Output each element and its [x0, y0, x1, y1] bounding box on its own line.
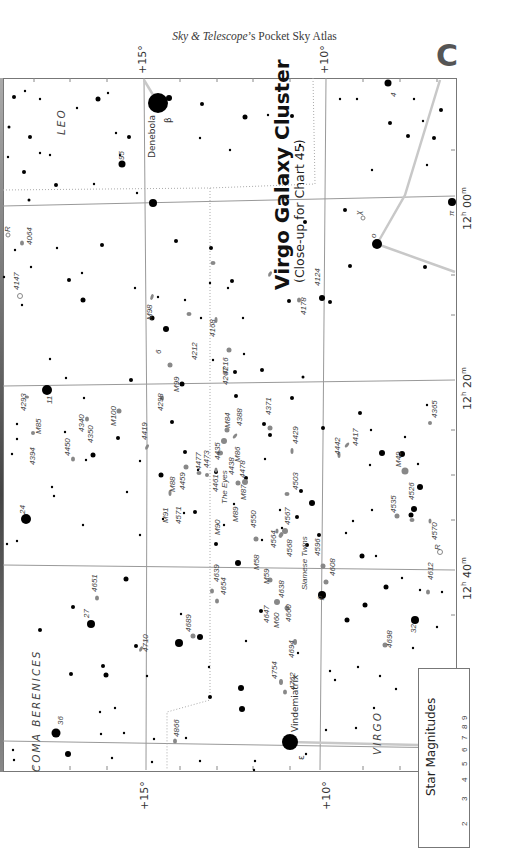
- star-label-chi: χ: [354, 211, 363, 215]
- object-label-4568: 4568: [285, 539, 294, 557]
- object-label-4550: 4550: [249, 510, 258, 528]
- star-label-24: 24: [18, 505, 27, 514]
- object-label-m58: M58: [252, 554, 261, 570]
- object-label-4698: 4698: [385, 630, 394, 648]
- object-label-4168: 4168: [208, 319, 217, 337]
- object-label-4612: 4612: [426, 562, 435, 580]
- object-label-the-eyes: The Eyes: [220, 470, 229, 504]
- star-label-r-north: R: [3, 226, 12, 232]
- constellation-coma-berenices: COMA BERENICES: [30, 649, 42, 772]
- star-label-r-south: R: [433, 544, 442, 550]
- object-label-4654: 4654: [219, 577, 228, 595]
- object-label-4503: 4503: [291, 472, 300, 490]
- frame-ticks: [34, 78, 455, 770]
- object-label-4350: 4350: [86, 425, 95, 443]
- dec-label-top-right: +10°: [318, 45, 331, 74]
- object-label-4526: 4526: [407, 482, 416, 500]
- star-label-omicron: ο: [369, 234, 378, 238]
- object-label-4371: 4371: [264, 397, 273, 415]
- legend-mag-7: 7: [460, 736, 469, 740]
- object-label-4866: 4866: [172, 719, 181, 737]
- star-denebola: [148, 93, 168, 113]
- constellation-virgo: VIRGO: [371, 711, 383, 755]
- object-label-4762: 4762: [288, 672, 297, 690]
- legend-mag-9: 9: [460, 716, 469, 720]
- object-label-m91: M91: [161, 507, 170, 523]
- object-label-4473: 4473: [202, 450, 211, 468]
- object-label-4651: 4651: [90, 574, 99, 592]
- star-label-denebola: Denebola: [147, 115, 157, 158]
- object-label-4435: 4435: [213, 442, 222, 460]
- object-label-4442: 4442: [333, 437, 342, 455]
- ra-label-12h20m: 12h 20m: [460, 367, 474, 410]
- object-label-4564: 4564: [269, 530, 278, 548]
- object-label-m59: M59: [262, 568, 271, 584]
- object-label-4450: 4450: [63, 438, 72, 456]
- object-label-4694: 4694: [287, 640, 296, 658]
- object-label-4461: 4461: [211, 474, 220, 492]
- object-label-4570: 4570: [430, 522, 439, 540]
- faint-stars: [3, 90, 443, 771]
- object-label-m89: M89: [231, 506, 240, 522]
- object-label-4212: 4212: [190, 342, 199, 360]
- constellation-boundaries: [3, 78, 315, 770]
- object-label-4147: 4147: [12, 272, 21, 290]
- object-label-4689: 4689: [184, 614, 193, 632]
- legend-mag-4: 4: [460, 778, 469, 782]
- object-label-4298: 4298: [156, 393, 165, 411]
- object-label-4124: 4124: [313, 268, 322, 286]
- object-label-4535: 4535: [389, 495, 398, 513]
- object-label-m49: M49: [394, 451, 403, 467]
- object-label-4429: 4429: [291, 426, 300, 444]
- object-label-m99: M99: [172, 376, 181, 392]
- object-label-4340: 4340: [77, 414, 86, 432]
- legend-mag-5: 5: [460, 762, 469, 766]
- star-label-11: 11: [45, 396, 54, 404]
- object-label-4419: 4419: [140, 422, 149, 440]
- object-label-4394: 4394: [28, 447, 37, 465]
- star-label-4: 4: [389, 93, 398, 97]
- star-label-32: 32: [409, 624, 418, 633]
- object-label-m85: M85: [34, 418, 43, 434]
- star-label-epsilon: ε: [296, 755, 306, 760]
- object-label-4365: 4365: [430, 400, 439, 418]
- object-label-m84: M84: [223, 412, 232, 428]
- object-label-m100: M100: [109, 406, 118, 426]
- object-label-4638: 4638: [277, 580, 286, 598]
- object-label-4567: 4567: [283, 507, 292, 525]
- object-label-4178: 4178: [299, 297, 308, 315]
- object-label-4660: 4660: [284, 604, 293, 622]
- star-label-36: 36: [56, 716, 65, 725]
- dec-label-top-left: +15°: [136, 45, 149, 74]
- object-label-siamese-twins: Siamese Twins: [300, 536, 309, 590]
- object-label-m60: M60: [272, 612, 281, 628]
- object-label-4064: 4064: [25, 227, 34, 245]
- constellation-leo: LEO: [55, 108, 67, 135]
- object-label-4608: 4608: [328, 558, 337, 576]
- legend-mag-3: 3: [460, 797, 469, 801]
- legend-mag-6: 6: [460, 748, 469, 752]
- object-label-4267: 4267: [221, 367, 230, 385]
- dec-label-bottom-left: +15°: [138, 781, 151, 810]
- star-label-95: 95: [117, 151, 126, 160]
- legend-mag-2: 2: [460, 822, 469, 826]
- map-subtitle: (Close-up for Chart 45): [292, 139, 307, 283]
- object-label-4478: 4478: [238, 460, 247, 478]
- object-label-m87: M87: [239, 484, 248, 500]
- object-label-m98: M98: [145, 304, 154, 320]
- star-label-beta: β: [163, 117, 173, 123]
- legend-title: Star Magnitudes: [424, 698, 438, 796]
- star-vindemiatrix: [282, 734, 298, 750]
- ra-label-12h00m: 12h 00m: [460, 187, 474, 230]
- object-label-4293: 4293: [19, 393, 28, 411]
- object-label-4710: 4710: [141, 634, 150, 652]
- object-label-4647: 4647: [262, 605, 271, 623]
- object-label-m88: M88: [168, 476, 177, 492]
- ra-label-12h40m: 12h 40m: [460, 557, 474, 600]
- object-label-4571: 4571: [174, 506, 183, 524]
- star-label-rho: ρ: [315, 595, 324, 600]
- star-label-6: 6: [154, 350, 163, 354]
- object-label-4459: 4459: [178, 472, 187, 490]
- star-label-27: 27: [82, 609, 91, 618]
- object-label-4417: 4417: [351, 428, 360, 446]
